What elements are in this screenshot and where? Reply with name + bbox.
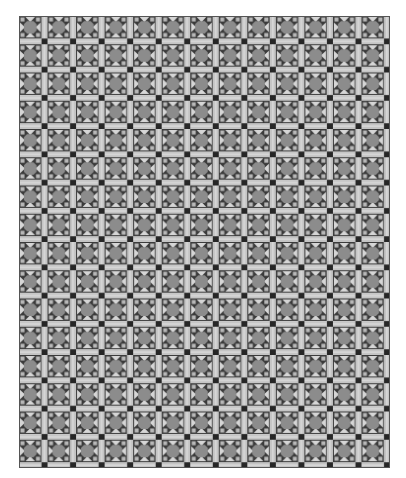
quilt-pattern bbox=[19, 16, 390, 468]
quilt-fill bbox=[19, 16, 390, 468]
quilt-svg bbox=[19, 16, 390, 468]
